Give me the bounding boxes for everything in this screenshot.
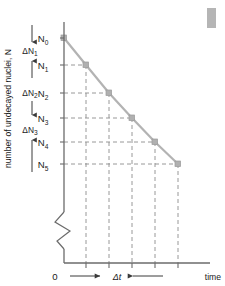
delta-n3-label: ΔN3 <box>22 125 38 136</box>
delta-t-label: Δt <box>112 272 122 282</box>
data-point-n3 <box>129 115 135 121</box>
x-axis-ticks <box>86 263 178 268</box>
corner-swatch <box>207 8 216 28</box>
delta-n2-annotation: ΔN2 <box>22 64 38 115</box>
decay-curve <box>64 38 178 164</box>
decay-graph-figure: N0 N1 N2 N3 N4 N5 ΔN1 <box>0 0 225 286</box>
y-tick-label-n3: N3 <box>38 113 49 126</box>
origin-label: 0 <box>52 271 57 282</box>
y-axis-break-zigzag <box>55 212 70 249</box>
delta-n1-label: ΔN1 <box>22 46 38 57</box>
data-point-n5 <box>175 161 181 167</box>
y-tick-label-n0: N0 <box>38 33 49 46</box>
projection-gridlines <box>64 65 178 263</box>
data-point-n2 <box>106 90 112 96</box>
delta-n3-annotation: ΔN3 <box>22 125 38 172</box>
y-axis-label: number of undecayed nuclei, N <box>3 49 13 168</box>
delta-n2-label: ΔN2 <box>22 88 38 99</box>
delta-n1-annotation: ΔN1 <box>22 25 38 78</box>
data-point-n4 <box>152 139 158 145</box>
y-tick-label-n5: N5 <box>38 159 49 172</box>
data-point-n1 <box>83 62 89 68</box>
x-axis-label: time <box>205 272 221 282</box>
y-tick-label-n1: N1 <box>38 60 49 73</box>
delta-t-annotation: Δt <box>70 272 163 282</box>
y-tick-label-n4: N4 <box>38 137 49 150</box>
y-tick-label-n2: N2 <box>38 88 49 101</box>
y-tick-labels: N0 N1 N2 N3 N4 N5 <box>38 33 49 172</box>
